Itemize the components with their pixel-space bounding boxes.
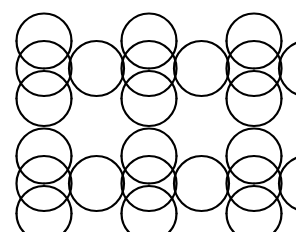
canvas-background	[0, 0, 296, 232]
arc-tiling-figure	[0, 0, 296, 232]
pattern-canvas	[0, 0, 296, 232]
